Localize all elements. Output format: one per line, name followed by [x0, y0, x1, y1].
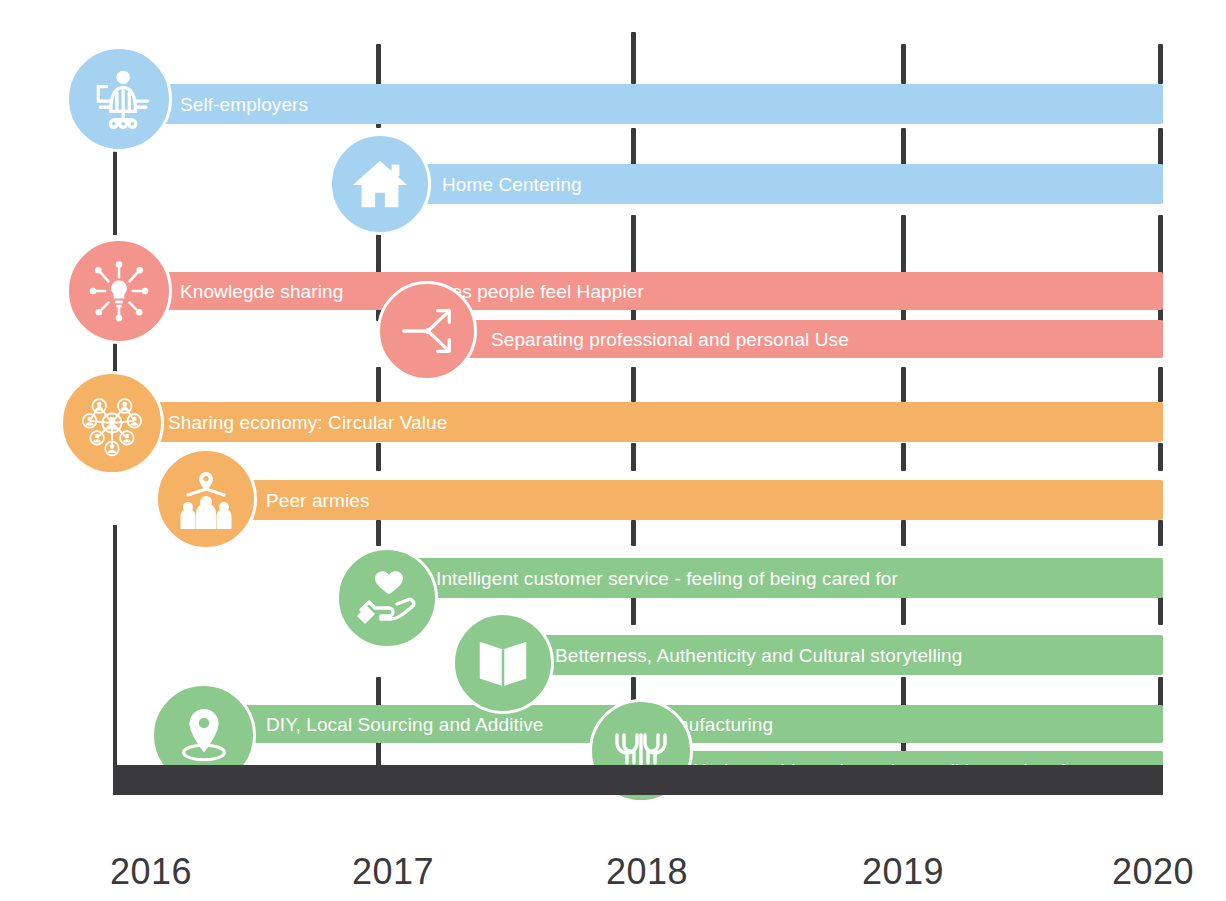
bar-label-peer-armies: Peer armies: [266, 491, 370, 510]
bar-knowledge-sharing[interactable]: Knowlegde sharing makes people feel Happ…: [128, 272, 1163, 310]
timeline-infographic: Self-employers Home Centering Knowlegde …: [0, 0, 1226, 901]
idea-network-icon: [85, 257, 153, 325]
open-book-icon: [472, 632, 534, 694]
gridline-2020-seg6: [1158, 443, 1163, 471]
bar-label-home-centering: Home Centering: [442, 175, 582, 194]
bar-label-diy-local-sourcing: DIY, Local Sourcing and Additive: [266, 715, 543, 734]
house-icon: [349, 153, 411, 215]
crowd-location-icon: [174, 467, 238, 531]
office-worker-icon: [86, 66, 152, 132]
gridline-2020-seg3: [1158, 215, 1163, 275]
gridline-2018-seg6: [631, 443, 636, 471]
bar-label-intelligent-customer-service: Intelligent customer service - feeling o…: [436, 569, 898, 588]
gridline-2018-seg3: [631, 215, 636, 275]
gridline-2019-seg5: [901, 367, 906, 402]
bar-self-employers[interactable]: Self-employers: [128, 84, 1163, 124]
gridline-2017-seg6: [376, 520, 381, 546]
icon-bubble-home-centering[interactable]: [329, 133, 431, 235]
icon-bubble-self-employers[interactable]: [66, 46, 172, 152]
gridline-2018-seg5: [631, 367, 636, 402]
year-label-2019: 2019: [862, 851, 944, 893]
gridline-2017-seg4: [376, 367, 381, 402]
bar-peer-armies[interactable]: Peer armies: [200, 480, 1163, 520]
split-arrows-icon: [396, 300, 458, 362]
year-label-2018: 2018: [606, 851, 688, 893]
gridline-2020-seg1: [1158, 44, 1163, 84]
gridline-2019-seg7: [901, 520, 906, 546]
heart-in-hand-icon: [355, 566, 419, 630]
bar-sharing-economy[interactable]: Sharing economy: Circular Value: [120, 402, 1163, 442]
year-label-2017: 2017: [352, 851, 434, 893]
gridline-2020-seg9: [1158, 677, 1163, 707]
gridline-2019-seg2: [901, 128, 906, 165]
gridline-2018-seg7: [631, 520, 636, 546]
gridline-2019-seg6: [901, 443, 906, 471]
gridline-2020-seg8: [1158, 597, 1163, 625]
people-network-icon: [78, 389, 146, 457]
gridline-2019-seg9: [901, 677, 906, 707]
bar-home-centering[interactable]: Home Centering: [390, 164, 1163, 204]
gridline-2017-seg5: [376, 443, 381, 471]
bar-label-self-employers: Self-employers: [180, 95, 308, 114]
icon-bubble-separating-professional-personal[interactable]: [377, 281, 477, 381]
gridline-2019-seg8: [901, 597, 906, 625]
gridline-2020-seg5: [1158, 367, 1163, 402]
axis-baseline-bar: [113, 765, 1163, 795]
bar-separating-professional-personal[interactable]: Separating professional and personal Use: [445, 320, 1163, 358]
gridline-2017-seg8: [376, 677, 381, 707]
gridline-2018-seg2: [631, 128, 636, 165]
bar-intelligent-customer-service[interactable]: Intelligent customer service - feeling o…: [388, 558, 1163, 598]
icon-bubble-intelligent-customer-service[interactable]: [336, 547, 438, 649]
bar-label-sharing-economy: Sharing economy: Circular Value: [168, 413, 447, 432]
location-pin-icon: [173, 705, 235, 767]
gridline-2019-seg1: [901, 44, 906, 84]
bar-label-betterness-authenticity: Betterness, Authenticity and Cultural st…: [555, 646, 962, 665]
year-label-2020: 2020: [1112, 851, 1194, 893]
year-label-2016: 2016: [110, 851, 192, 893]
axis-line-2016-seg3: [113, 525, 117, 775]
gridline-2020-seg2: [1158, 128, 1163, 165]
icon-bubble-betterness-authenticity[interactable]: [452, 612, 554, 714]
gridline-2019-seg3: [901, 215, 906, 275]
bar-betterness-authenticity[interactable]: Betterness, Authenticity and Cultural st…: [505, 635, 1163, 675]
gridline-2020-seg7: [1158, 520, 1163, 546]
timeline-plot-area: Self-employers Home Centering Knowlegde …: [0, 0, 1226, 790]
gridline-2018-seg1: [631, 32, 636, 84]
bar-label-separating-professional-personal: Separating professional and personal Use: [491, 330, 849, 349]
icon-bubble-sharing-economy[interactable]: [60, 371, 164, 475]
gridline-2018-seg8: [631, 597, 636, 625]
icon-bubble-peer-armies[interactable]: [155, 448, 257, 550]
bar-label-knowledge-sharing: Knowlegde sharing: [180, 282, 343, 301]
icon-bubble-knowledge-sharing[interactable]: [66, 238, 172, 344]
